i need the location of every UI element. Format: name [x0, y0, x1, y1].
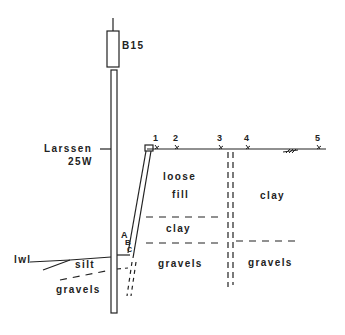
soil-gravels-left-label: gravels [56, 284, 101, 295]
anchor-block [145, 145, 153, 151]
point-4-label: 4 [244, 133, 249, 143]
hammer-label: B15 [122, 40, 145, 51]
soil-clay-middle-label: clay [166, 223, 191, 234]
soil-clay-right-label: clay [260, 190, 285, 201]
point-5-label: 5 [315, 133, 320, 143]
soil-gravels-middle-label: gravels [158, 258, 203, 269]
cross-section-diagram [0, 0, 345, 335]
water-level-label: lwl [14, 254, 32, 265]
strut-point-c: C [127, 246, 132, 253]
sheet-pile-larssen [111, 70, 117, 313]
vibro-hammer-b15 [107, 31, 119, 67]
point-2-label: 2 [173, 133, 178, 143]
point-1-label: 1 [153, 133, 158, 143]
point-3-label: 3 [217, 133, 222, 143]
pile-label-type: 25W [68, 156, 93, 167]
pile-label-name: Larssen [44, 143, 92, 154]
soil-loose-label: loose [163, 171, 196, 182]
soil-fill-label: fill [172, 189, 189, 200]
ground-hatch-symbol [283, 149, 298, 153]
soil-gravels-right-label: gravels [248, 257, 293, 268]
soil-silt-label: silt [75, 259, 95, 270]
silt-gravels-boundary [60, 270, 111, 280]
